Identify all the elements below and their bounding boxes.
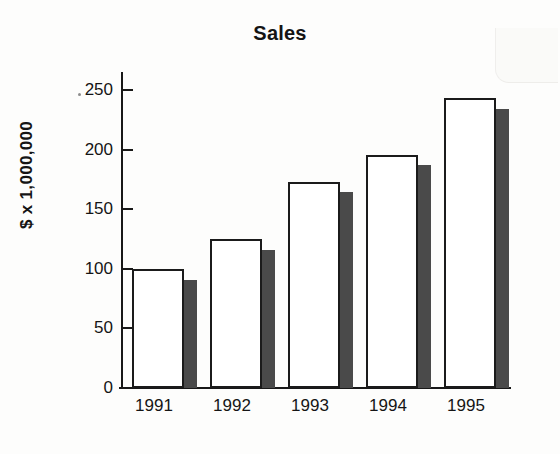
y-axis-tick-label-100: 100	[55, 260, 113, 277]
x-axis-tick-label-1992: 1992	[193, 396, 271, 416]
bar	[210, 239, 262, 388]
bar-group	[288, 72, 353, 388]
bar-group	[210, 72, 275, 388]
x-axis-tick-label-1991: 1991	[115, 396, 193, 416]
y-axis-tick-label-150: 150	[55, 200, 113, 217]
y-axis-tick-label-250: 250	[55, 81, 113, 98]
y-axis-tick-labels: 050100150200250	[51, 72, 113, 388]
plot-area: 050100150200250 19911992199319941995	[121, 72, 511, 388]
bar-shadow	[418, 165, 431, 388]
bar-shadow	[340, 192, 353, 388]
bar-shadow	[496, 109, 509, 388]
bar-group	[132, 72, 197, 388]
bar	[366, 155, 418, 388]
bar-shadow	[184, 280, 197, 389]
bar-shadow	[262, 250, 275, 388]
bar-group	[444, 72, 509, 388]
y-axis-title: $ x 1,000,000	[17, 85, 37, 265]
x-axis-tick-label-1995: 1995	[427, 396, 505, 416]
bar	[132, 269, 184, 388]
bar	[444, 98, 496, 388]
y-axis-tick-label-0: 0	[55, 379, 113, 396]
y-axis-tick-label-50: 50	[55, 319, 113, 336]
x-axis-tick-label-1994: 1994	[349, 396, 427, 416]
bar	[288, 182, 340, 388]
bar-group	[366, 72, 431, 388]
chart-title: Sales	[0, 22, 560, 45]
chart-figure: Sales $ x 1,000,000 050100150200250 1991…	[0, 0, 560, 454]
y-axis-line	[121, 72, 123, 388]
y-axis-tick-label-200: 200	[55, 141, 113, 158]
x-axis-tick-label-1993: 1993	[271, 396, 349, 416]
